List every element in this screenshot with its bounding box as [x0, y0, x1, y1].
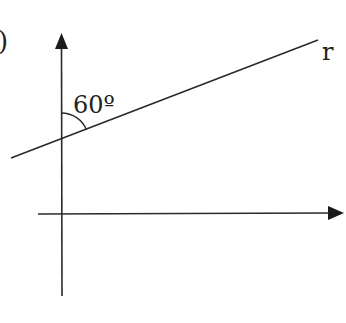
- item-marker: ): [0, 26, 8, 56]
- y-axis: [62, 48, 63, 296]
- angle-label: 60º: [73, 91, 115, 119]
- y-axis-arrow-icon: [55, 33, 68, 49]
- line-r: [11, 40, 318, 158]
- diagram-canvas: ) 60º r: [0, 0, 346, 323]
- x-axis-arrow-icon: [328, 206, 344, 220]
- line-label-r: r: [322, 38, 334, 66]
- x-axis: [38, 213, 330, 214]
